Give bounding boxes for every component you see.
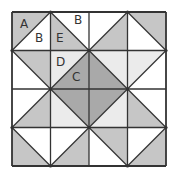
vertex-dot: [49, 87, 52, 90]
vertex-dot: [49, 164, 52, 167]
quilt-block-diagram: A B B E D C: [0, 0, 176, 171]
vertex-dot: [164, 49, 167, 52]
vertex-dot: [49, 10, 52, 13]
vertex-dot: [87, 126, 90, 129]
label-e: E: [56, 31, 64, 45]
vertex-dot: [126, 10, 129, 13]
vertex-dot: [164, 126, 167, 129]
label-a: A: [20, 17, 29, 31]
label-c: C: [72, 70, 80, 84]
vertex-dot: [126, 87, 129, 90]
label-b-2: B: [74, 13, 82, 27]
label-b-1: B: [35, 31, 43, 45]
vertex-dot: [10, 49, 13, 52]
vertex-dot: [126, 164, 129, 167]
vertex-dot: [87, 49, 90, 52]
label-d: D: [56, 55, 65, 69]
vertex-dot: [10, 126, 13, 129]
